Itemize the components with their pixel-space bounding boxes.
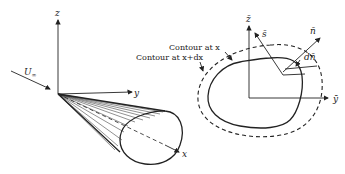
n-bar-label: n̄ xyxy=(310,26,316,36)
freestream-label: U∞ xyxy=(24,67,37,78)
dn-bar-label: dn̄ xyxy=(304,52,316,62)
contour-x-dx-label: Contour at x+dx xyxy=(136,53,204,62)
y-bar-axis-label: ȳ xyxy=(332,94,339,104)
contour-x-label: Contour at x xyxy=(169,43,220,52)
contour-x-dx-leader xyxy=(200,62,203,71)
left-figure: z y U∞ x xyxy=(11,8,187,164)
s-bar-label: s̄ xyxy=(262,29,267,39)
x-axis-hidden xyxy=(58,94,165,145)
s-bar-vector xyxy=(255,33,283,75)
z-bar-axis-label: z̄ xyxy=(245,14,251,24)
contour-x-leader xyxy=(225,52,232,60)
cone-flow-diagram: z y U∞ x xyxy=(0,0,345,174)
x-axis-label: x xyxy=(182,149,187,159)
right-figure: z̄ ȳ s̄ n̄ dn̄ Contour at x Contour at x… xyxy=(136,14,339,137)
y-axis xyxy=(58,92,132,94)
dn-tick-outer xyxy=(285,66,317,69)
cone-base xyxy=(120,111,182,165)
contour-x xyxy=(208,58,302,128)
y-axis-label: y xyxy=(133,88,140,98)
z-axis-label: z xyxy=(54,8,60,18)
x-axis xyxy=(165,145,179,152)
